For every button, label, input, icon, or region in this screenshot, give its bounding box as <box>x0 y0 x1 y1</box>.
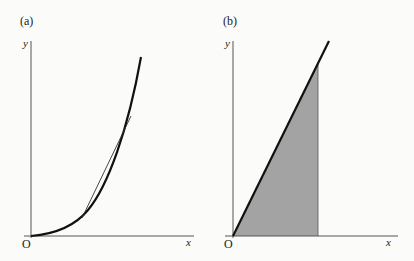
panel-b: (b) y x O <box>223 14 398 251</box>
panel-a-label: (a) <box>20 14 33 28</box>
panel-a: (a) y x O <box>20 14 194 251</box>
panel-a-y-label: y <box>22 37 28 49</box>
panel-a-tangent-line <box>82 116 131 218</box>
panel-b-y-label: y <box>224 37 230 49</box>
panel-a-x-label: x <box>185 236 191 248</box>
panel-b-label: (b) <box>223 14 237 28</box>
panel-b-origin-label: O <box>224 237 233 251</box>
panel-a-origin-label: O <box>22 237 31 251</box>
panel-b-x-label: x <box>385 236 391 248</box>
figure: (a) y x O (b) y x O <box>0 0 414 261</box>
